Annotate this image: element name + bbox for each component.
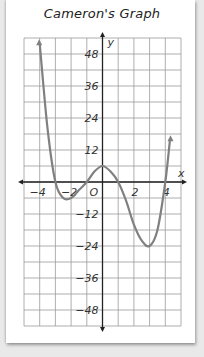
svg-text:O: O [90,186,99,199]
svg-text:−36: −36 [75,272,98,285]
svg-text:−12: −12 [75,208,98,221]
chart-plot: −4−22448362412−12−24−36−48Oxy [0,0,204,357]
svg-text:x: x [177,167,185,180]
tick-labels: −4−22448362412−12−24−36−48Oxy [30,36,185,317]
svg-text:−48: −48 [75,304,98,317]
curve-arrows [36,39,173,141]
svg-text:y: y [107,36,115,49]
svg-text:12: 12 [85,144,99,157]
svg-text:36: 36 [85,80,99,93]
svg-text:24: 24 [85,112,99,125]
svg-text:−24: −24 [75,240,98,253]
function-curve [40,43,170,246]
svg-text:48: 48 [85,48,99,61]
svg-text:−4: −4 [30,186,46,199]
svg-text:2: 2 [131,186,138,199]
